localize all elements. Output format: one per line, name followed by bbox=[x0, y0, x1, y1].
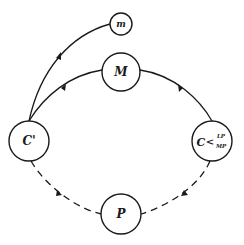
edge-cprime-to-M bbox=[29, 70, 102, 121]
edge-M-to-C bbox=[140, 70, 212, 121]
arrow-icon bbox=[56, 190, 62, 196]
label-m: m bbox=[116, 19, 126, 29]
label-C-prime: C' bbox=[22, 134, 35, 148]
arrow-icon bbox=[178, 84, 183, 92]
label-C: C bbox=[197, 136, 206, 149]
label-C-branch: < bbox=[206, 136, 214, 147]
label-C-sup: LP bbox=[216, 133, 226, 139]
edge-cprime-to-P bbox=[31, 161, 101, 214]
label-P: P bbox=[115, 207, 126, 221]
edge-C-to-P bbox=[141, 161, 210, 214]
edge-cprime-to-m bbox=[29, 24, 110, 121]
circuit-diagram: m M C' C < LP MP P bbox=[0, 0, 244, 245]
label-M: M bbox=[113, 65, 128, 79]
label-C-sub: MP bbox=[215, 143, 227, 149]
arrow-icon bbox=[181, 190, 188, 196]
